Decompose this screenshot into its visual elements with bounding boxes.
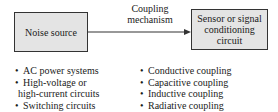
sensor-label-line-1: Sensor or signal	[197, 13, 261, 24]
bullet-icon: •	[140, 77, 144, 89]
bullet-icon: •	[140, 65, 144, 77]
list-item: •Inductive coupling	[140, 88, 232, 100]
list-item: •High-voltage or	[15, 77, 99, 89]
list-item: •Conductive coupling	[140, 65, 232, 77]
list-item-continuation: high-current circuits	[15, 88, 99, 100]
list-item: •Radiative coupling	[140, 100, 232, 112]
bullet-icon: •	[15, 100, 19, 112]
list-item: •Capacitive coupling	[140, 77, 232, 89]
list-item: •Switching circuits	[15, 100, 99, 112]
bullet-icon: •	[140, 100, 144, 112]
coupling-types-list: •Conductive coupling •Capacitive couplin…	[140, 65, 232, 111]
sensor-label-line-3: circuit	[197, 35, 261, 46]
bullet-icon: •	[15, 77, 19, 89]
arrowhead-icon	[184, 29, 191, 35]
sensor-label-line-2: conditioning	[197, 24, 261, 35]
bullet-icon: •	[15, 65, 19, 77]
noise-source-examples-list: •AC power systems •High-voltage or high-…	[15, 65, 99, 111]
sensor-circuit-box: Sensor or signal conditioning circuit	[191, 9, 268, 50]
list-item: •AC power systems	[15, 65, 99, 77]
bullet-icon: •	[140, 88, 144, 100]
